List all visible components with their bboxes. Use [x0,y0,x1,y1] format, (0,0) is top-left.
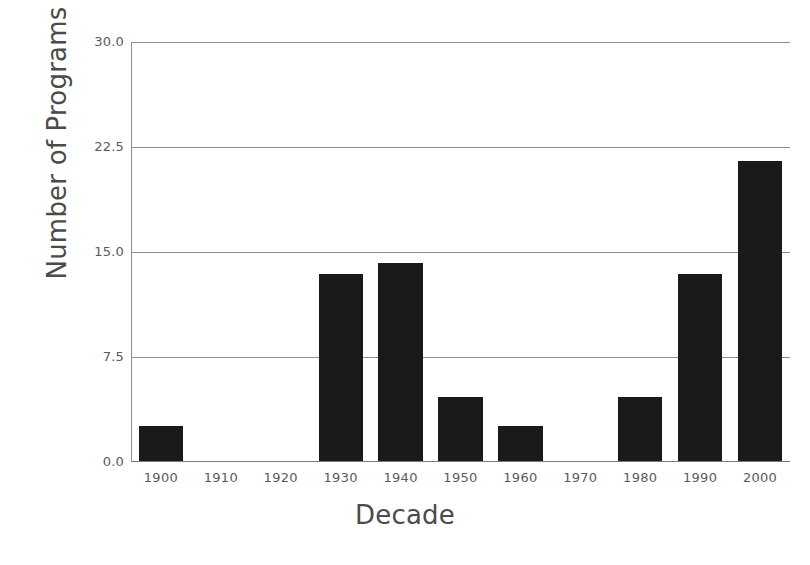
bar-1930 [319,274,363,461]
bar-1960 [498,426,542,461]
y-tick-label-30: 30.0 [78,34,124,49]
x-axis-title: Decade [0,500,810,530]
x-tick-label-1910: 1910 [191,470,251,485]
x-tick-label-2000: 2000 [730,470,790,485]
x-tick-label-1950: 1950 [431,470,491,485]
bar-1940 [378,263,422,461]
bar-1980 [618,397,662,461]
y-axis-title: Number of Programs [37,0,77,303]
bar-1950 [438,397,482,461]
bar-chart: Number of Programs 30.0 22.5 15.0 7.5 0.… [0,0,810,565]
y-tick-label-7-5: 7.5 [78,349,124,364]
y-tick-label-22-5: 22.5 [78,139,124,154]
x-tick-label-1960: 1960 [490,470,550,485]
bars-layer [131,42,790,462]
y-tick-label-0: 0.0 [78,454,124,469]
bar-1900 [139,426,183,461]
x-tick-label-1920: 1920 [251,470,311,485]
x-tick-label-1940: 1940 [371,470,431,485]
x-tick-label-1970: 1970 [550,470,610,485]
y-tick-label-15: 15.0 [78,244,124,259]
x-tick-label-1900: 1900 [131,470,191,485]
x-tick-label-1990: 1990 [670,470,730,485]
bar-1990 [678,274,722,461]
x-tick-label-1930: 1930 [311,470,371,485]
x-tick-label-1980: 1980 [610,470,670,485]
bar-2000 [738,161,782,461]
